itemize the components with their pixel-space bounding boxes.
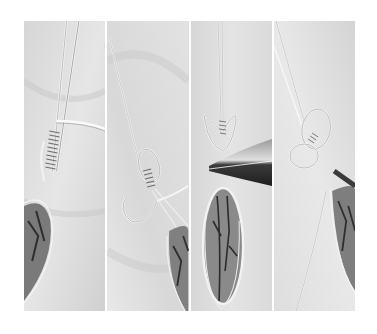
wire-wrap-step-3-image [191,21,272,311]
wire-wrap-step-2-image [107,21,188,311]
wire-wrap-step-1-image [24,21,105,311]
photo-panel-step-4 [274,21,355,311]
photo-panel-step-3 [191,21,272,311]
wire-wrap-step-4-image [274,21,355,311]
photo-panel-step-1 [24,21,105,311]
photo-collage [24,21,355,311]
photo-panel-step-2 [107,21,188,311]
